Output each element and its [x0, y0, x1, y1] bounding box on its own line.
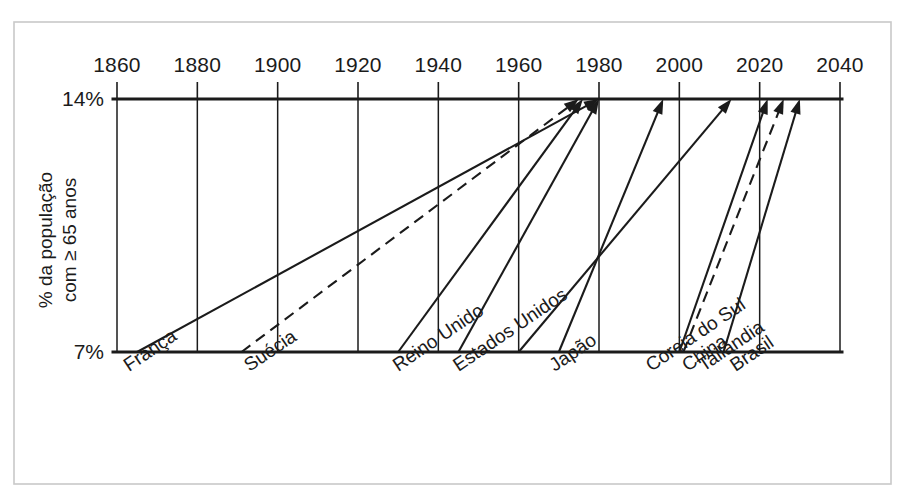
x-tick-label-1940: 1940 — [415, 53, 463, 76]
aging-population-chart: 1860188019001920194019601980200020202040… — [0, 0, 905, 504]
y-axis-title: % da população com ≥ 65 anos — [35, 172, 80, 308]
x-tick-label-2040: 2040 — [816, 53, 864, 76]
x-tick-label-1880: 1880 — [174, 53, 222, 76]
country-label-frana: França — [120, 325, 181, 376]
y-axis-title-line-1: % da população — [35, 172, 56, 308]
trend-line-japo — [559, 110, 659, 352]
chart-figure: 1860188019001920194019601980200020202040… — [0, 0, 905, 504]
arrow-head-brasil — [791, 99, 801, 115]
x-tick-label-2000: 2000 — [656, 53, 704, 76]
x-tick-label-1960: 1960 — [495, 53, 543, 76]
x-axis-labels: 1860188019001920194019601980200020202040 — [93, 53, 864, 76]
x-tick-label-2020: 2020 — [736, 53, 784, 76]
x-tick-label-1980: 1980 — [575, 53, 623, 76]
x-tick-label-1900: 1900 — [254, 53, 302, 76]
x-axis-tickmarks — [117, 82, 840, 99]
y-tick-label-7pct: 7% — [74, 340, 104, 363]
y-axis-title-line-2: com ≥ 65 anos — [59, 178, 80, 303]
x-tick-label-1860: 1860 — [93, 53, 141, 76]
arrow-head-japo — [653, 99, 664, 115]
arrow-head-tailndia — [773, 99, 783, 115]
y-tick-label-14pct: 14% — [62, 87, 104, 110]
country-label-sucia: Suécia — [240, 325, 300, 375]
x-tick-label-1920: 1920 — [334, 53, 382, 76]
